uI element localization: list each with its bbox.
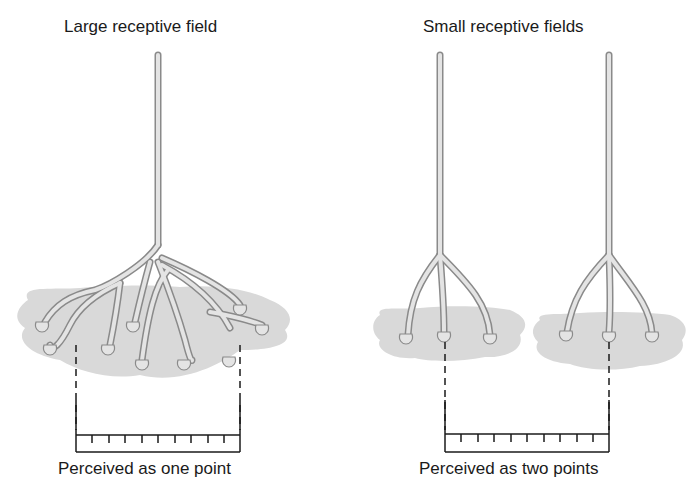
small-field-neuron-2 (559, 55, 658, 342)
small-field-neuron-1 (399, 55, 496, 344)
receptive-field-diagram (0, 0, 692, 499)
